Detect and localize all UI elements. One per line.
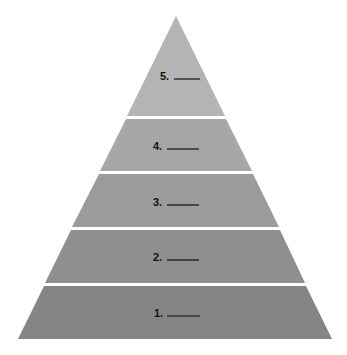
pyramid-level-4 (100, 119, 252, 171)
level-number: 2. (153, 251, 162, 263)
level-number: 5. (160, 70, 169, 82)
pyramid-level-2 (45, 230, 305, 283)
level-number: 1. (154, 307, 163, 319)
pyramid-level-3 (72, 174, 279, 227)
pyramid-level-5 (127, 16, 225, 116)
level-number: 3. (153, 196, 162, 208)
pyramid-level-1 (18, 286, 332, 339)
pyramid-diagram: 5. 4. 3. 2. 1. (0, 0, 347, 355)
level-number: 4. (153, 140, 162, 152)
